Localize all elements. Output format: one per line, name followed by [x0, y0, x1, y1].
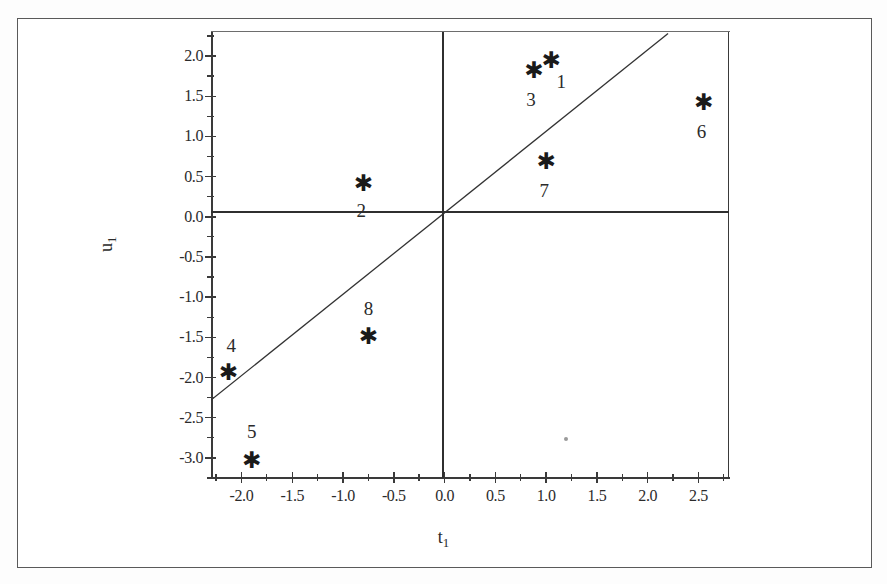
y-axis-major-tick: [205, 377, 216, 379]
y-axis-major-tick: [205, 457, 216, 459]
data-point-label: 8: [364, 298, 374, 320]
y-axis-tick-label: 1.5: [157, 87, 203, 105]
y-axis-title-base: u: [96, 243, 116, 252]
plot-right-border: [728, 32, 729, 478]
y-axis-major-tick: [205, 176, 216, 178]
x-axis-minor-tick: [571, 474, 572, 481]
y-axis-major-tick: [205, 337, 216, 339]
y-axis-major-tick: [205, 296, 216, 298]
x-axis-minor-tick: [622, 474, 623, 481]
x-axis-major-tick: [241, 472, 243, 483]
x-axis-major-tick: [495, 472, 497, 483]
y-axis-tick-label: 2.0: [157, 47, 203, 65]
x-axis-minor-tick: [672, 474, 673, 481]
y-axis-major-tick: [205, 96, 216, 98]
plot-top-border: [211, 31, 730, 32]
stray-speck-mark: [564, 437, 568, 441]
x-axis-minor-tick: [520, 474, 521, 481]
data-point-label: 6: [697, 121, 707, 143]
y-axis-major-tick: [205, 417, 216, 419]
y-axis-minor-tick: [207, 35, 214, 36]
y-axis-minor-tick: [207, 236, 214, 237]
y-axis-minor-tick: [207, 156, 214, 157]
x-axis-tick-label: 2.0: [622, 487, 674, 505]
x-axis-minor-tick: [469, 474, 470, 481]
plot-left-spine: [211, 32, 213, 478]
y-axis-major-tick: [205, 55, 216, 57]
data-point-label: 3: [526, 89, 536, 111]
data-point-label: 5: [247, 421, 257, 443]
y-axis-title: u1: [96, 237, 120, 252]
y-axis-tick-label: -1.5: [157, 328, 203, 346]
x-axis-minor-tick: [317, 474, 318, 481]
x-axis-tick-label: 0.0: [419, 487, 471, 505]
data-point-label: 7: [539, 180, 549, 202]
y-axis-minor-tick: [207, 276, 214, 277]
y-axis-tick-label: 0.0: [157, 208, 203, 226]
x-axis-minor-tick: [215, 474, 216, 481]
x-axis-tick-label: 1.5: [571, 487, 623, 505]
x-axis-title: t1: [0, 527, 887, 551]
x-axis-major-tick: [444, 472, 446, 483]
y-axis-tick-label: -1.0: [157, 288, 203, 306]
y-axis-minor-tick: [207, 357, 214, 358]
x-axis-major-tick: [393, 472, 395, 483]
y-axis-tick-label: 0.5: [157, 168, 203, 186]
x-axis-tick-label: -0.5: [368, 487, 420, 505]
x-axis-major-tick: [292, 472, 294, 483]
y-axis-minor-tick: [207, 196, 214, 197]
data-point-label: 2: [357, 200, 367, 222]
y-axis-minor-tick: [207, 437, 214, 438]
y-axis-minor-tick: [207, 477, 214, 478]
scatter-plot-figure: -2.0-1.5-1.0-0.50.00.51.01.52.02.52.01.5…: [0, 0, 887, 584]
y-axis-major-tick: [205, 256, 216, 258]
x-axis-title-subscript: 1: [443, 535, 449, 550]
x-axis-minor-tick: [723, 474, 724, 481]
x-axis-tick-label: -1.5: [266, 487, 318, 505]
y-axis-tick-label: -0.5: [157, 248, 203, 266]
x-axis-tick-label: 1.0: [520, 487, 572, 505]
x-axis-minor-tick: [368, 474, 369, 481]
data-point-label: 4: [227, 335, 237, 357]
y-axis-title-subscript: 1: [104, 237, 119, 243]
y-axis-minor-tick: [207, 116, 214, 117]
x-axis-tick-label: 2.5: [673, 487, 725, 505]
y-zero-axis-line: [442, 32, 444, 478]
x-axis-minor-tick: [266, 474, 267, 481]
x-axis-tick-label: -2.0: [215, 487, 267, 505]
y-axis-tick-label: -2.5: [157, 409, 203, 427]
y-axis-tick-label: -3.0: [157, 449, 203, 467]
y-axis-major-tick: [205, 136, 216, 138]
x-zero-axis-line: [211, 211, 729, 213]
x-axis-major-tick: [545, 472, 547, 483]
y-axis-tick-label: 1.0: [157, 127, 203, 145]
x-axis-major-tick: [596, 472, 598, 483]
data-point-label: 1: [557, 71, 567, 93]
y-axis-minor-tick: [207, 397, 214, 398]
figure-outer-frame: [17, 18, 872, 568]
y-axis-tick-label: -2.0: [157, 369, 203, 387]
x-axis-major-tick: [342, 472, 344, 483]
x-axis-major-tick: [698, 472, 700, 483]
x-axis-major-tick: [647, 472, 649, 483]
y-axis-major-tick: [205, 216, 216, 218]
y-axis-minor-tick: [207, 75, 214, 76]
x-axis-tick-label: 0.5: [469, 487, 521, 505]
x-axis-minor-tick: [418, 474, 419, 481]
x-axis-tick-label: -1.0: [317, 487, 369, 505]
y-axis-minor-tick: [207, 317, 214, 318]
